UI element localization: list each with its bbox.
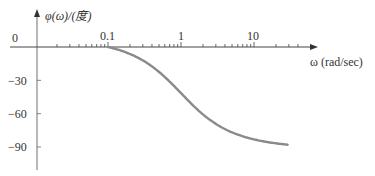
x-axis-label: ω (rad/sec) [310,55,363,69]
y-axis-label: φ(ω)/(度) [45,9,91,23]
y-tick-label--30: −30 [8,74,27,88]
x-tick-label-10: 10 [247,29,259,43]
y-tick-label--60: −60 [8,107,27,121]
y-tick-label--90: −90 [8,140,27,154]
bode-phase-chart: φ(ω)/(度) 0 0.1 1 10 ω (rad/sec) −30 −60 … [0,0,375,176]
y-axis-arrow-icon [34,9,40,17]
origin-label: 0 [12,31,18,45]
x-tick-label-1: 1 [178,29,184,43]
x-axis-arrow-icon [310,44,318,50]
phase-curve [108,47,288,145]
x-tick-label-0.1: 0.1 [100,29,115,43]
